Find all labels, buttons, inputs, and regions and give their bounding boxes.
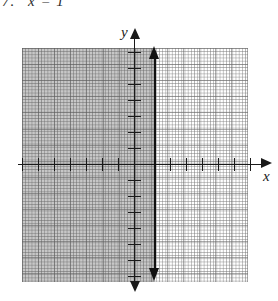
x-axis-tick [70, 158, 71, 171]
y-axis-tick [128, 276, 141, 277]
y-axis-tick [128, 196, 141, 197]
x-axis-tick [202, 158, 203, 171]
y-axis-tick [128, 84, 141, 85]
x-axis-tick [38, 158, 39, 171]
y-axis-label: y [121, 24, 128, 41]
y-axis-arrow-up-icon [130, 28, 140, 39]
boundary-line-x-equals-1 [154, 56, 156, 271]
x-axis-arrow-right-icon [261, 158, 272, 168]
y-axis-tick [128, 228, 141, 229]
boundary-line-arrow-down-icon [149, 268, 159, 281]
y-axis-tick [128, 148, 141, 149]
x-axis-label: x [263, 168, 270, 185]
x-axis-tick [102, 158, 103, 171]
x-axis-tick [234, 158, 235, 171]
y-axis-tick [128, 212, 141, 213]
y-axis [134, 36, 135, 289]
x-axis-tick [218, 158, 219, 171]
x-axis-tick [86, 158, 87, 171]
coordinate-plane-figure: x y [0, 0, 278, 301]
x-axis-tick [186, 158, 187, 171]
y-axis-tick [128, 180, 141, 181]
y-axis-tick [128, 100, 141, 101]
y-axis-tick [128, 116, 141, 117]
x-axis-tick [22, 158, 23, 171]
x-axis-tick [170, 158, 171, 171]
x-axis-tick [118, 158, 119, 171]
y-axis-tick [128, 52, 141, 53]
x-axis-tick [250, 158, 251, 171]
y-axis-tick [128, 260, 141, 261]
y-axis-tick [128, 68, 141, 69]
y-axis-tick [128, 132, 141, 133]
y-axis-tick [128, 244, 141, 245]
x-axis-tick [54, 158, 55, 171]
y-axis-arrow-down-icon [130, 281, 140, 292]
boundary-line-arrow-up-icon [149, 46, 159, 59]
